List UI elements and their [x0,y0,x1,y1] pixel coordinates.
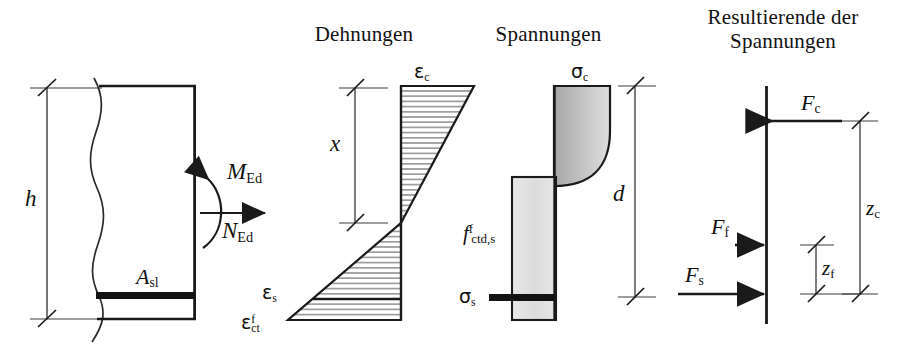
stress-steel-bar [489,294,555,301]
label-ff: Ff [711,216,729,240]
label-fctds-f: ffctd,s [463,222,495,245]
label-asl: Asl [136,266,159,290]
rebar-asl [96,292,195,299]
figure-canvas: Dehnungen Spannungen Resultierende der S… [0,0,903,352]
title-resultants-line1: Resultierende der [676,5,890,30]
title-resultants-line2: Spannungen [676,29,890,54]
dimension-h [30,79,102,327]
label-epsilon-c: εc [414,62,430,84]
strain-diagram-group [288,79,474,320]
label-sigma-s: σs [459,287,476,309]
label-ned: NEd [222,219,253,244]
label-epsilon-s: εs [262,283,277,305]
label-d: d [613,182,625,205]
label-sigma-c: σc [571,62,588,84]
label-med: MEd [227,160,262,185]
label-zc: zc [866,198,880,220]
label-fc: Fc [801,92,821,116]
label-zf: zf [822,258,835,280]
label-x: x [330,132,340,155]
label-h: h [25,187,37,210]
strain-tension-triangle [288,223,401,320]
break-line [91,78,104,342]
strain-compression-triangle [401,86,474,223]
label-epsilon-ct-f: εfct [241,313,260,335]
cross-section-group [30,78,196,342]
stress-diagram-group [489,77,656,320]
resultants-group [678,86,878,324]
title-strains: Dehnungen [299,22,429,47]
stress-concrete-block [554,86,610,186]
title-stresses: Spannungen [476,22,621,47]
dimension-x [339,79,388,231]
label-fs: Fs [685,264,704,288]
